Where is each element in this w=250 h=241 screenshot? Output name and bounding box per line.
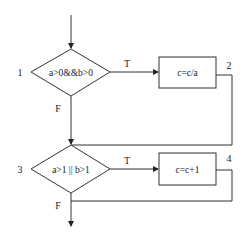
process-4-number: 4: [227, 153, 232, 164]
flowchart: a>0&&b>0 1 T c=c/a 2 F a>1 || b>1 3 T c=…: [0, 0, 250, 241]
process-2-number: 2: [227, 60, 232, 71]
edge-3-end-label: F: [55, 200, 61, 211]
process-4-text: c=c+1: [176, 165, 200, 175]
edge-1-2-label: T: [124, 58, 130, 69]
decision-3-number: 3: [18, 164, 23, 175]
edge-3-4-label: T: [124, 155, 130, 166]
edge-1-3-label: F: [55, 103, 61, 114]
process-2-text: c=c/a: [177, 68, 198, 78]
decision-3-text: a>1 || b>1: [52, 165, 90, 175]
decision-1-text: a>0&&b>0: [49, 68, 93, 78]
decision-1-number: 1: [18, 67, 23, 78]
